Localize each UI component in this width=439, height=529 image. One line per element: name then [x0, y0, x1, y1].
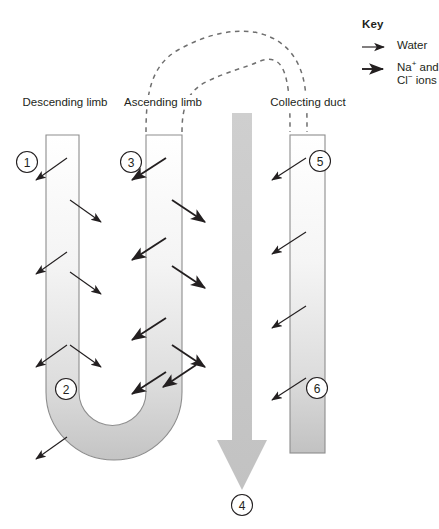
- marker-4-label: 4: [239, 499, 246, 513]
- key-label-ions: Na+ and Cl− ions: [397, 61, 439, 87]
- marker-1-label: 1: [24, 156, 31, 170]
- marker-2: 2: [56, 379, 77, 400]
- label-collecting-duct: Collecting duct: [263, 95, 353, 109]
- key-legend: Key Water: [362, 18, 439, 94]
- marker-1: 1: [17, 152, 38, 173]
- distal-tubule-dashed-path: [146, 31, 307, 132]
- key-item-ions: Na+ and Cl− ions: [362, 61, 439, 87]
- marker-6-label: 6: [314, 382, 321, 396]
- key-ions-line1: Na+ and: [397, 61, 439, 73]
- key-ions-line2: Cl− ions: [397, 74, 437, 86]
- key-ions-and: and: [416, 61, 438, 73]
- key-item-water: Water: [362, 39, 439, 54]
- diagram-canvas: 1 2 3 4 5 6 Descending limb Ascending li…: [0, 0, 439, 529]
- thin-arrow-icon: [362, 40, 392, 54]
- key-title: Key: [362, 18, 439, 30]
- concentration-gradient-arrow: [217, 113, 267, 490]
- loop-of-henle-tube: [46, 135, 182, 460]
- marker-6: 6: [307, 378, 328, 399]
- marker-3-label: 3: [128, 156, 135, 170]
- marker-5: 5: [310, 151, 331, 172]
- marker-5-label: 5: [317, 155, 324, 169]
- key-ions-cl: Cl: [397, 74, 408, 86]
- marker-4: 4: [232, 495, 253, 516]
- key-ions-suffix: ions: [413, 74, 437, 86]
- label-descending-limb: Descending limb: [16, 95, 114, 109]
- marker-2-label: 2: [63, 383, 70, 397]
- label-ascending-limb: Ascending limb: [117, 95, 209, 109]
- key-label-water: Water: [397, 39, 427, 52]
- collecting-duct-tube: [290, 135, 325, 453]
- marker-3: 3: [121, 152, 142, 173]
- thick-arrow-icon: [362, 62, 392, 76]
